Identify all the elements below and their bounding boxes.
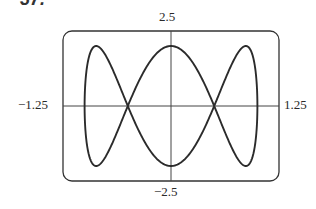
y-min-tick-label: −2.5 [154, 184, 178, 200]
x-min-tick-label: −1.25 [18, 97, 48, 113]
y-max-tick-label: 2.5 [159, 9, 175, 25]
x-max-tick-label: 1.25 [284, 97, 307, 113]
